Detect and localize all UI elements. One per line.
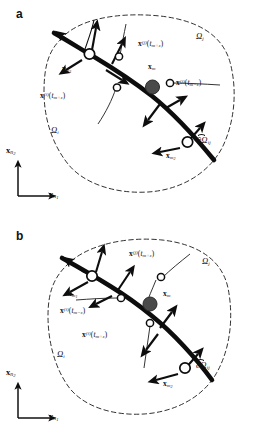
label-omega-i-b: Ωi (57, 350, 65, 359)
label-x-m1-b: xm1 (68, 290, 78, 299)
label-x-m-b: xm (163, 290, 171, 298)
axis-label-vertical-a: xn2 (6, 147, 16, 157)
node-open-m2 (180, 363, 190, 373)
label-omega-j-b: Ωj (202, 257, 210, 266)
panel-a-graphic (0, 0, 255, 218)
label-omega-j-a: Ωj (196, 32, 204, 41)
trajectory-line-j-plus (162, 254, 190, 278)
label-x-m2-b: xm2 (163, 380, 173, 389)
node-open-m2 (182, 137, 192, 147)
coordinate-axes (18, 166, 50, 196)
node-open-traj-i-plus (146, 319, 153, 326)
label-boundary-omega-ij-a: ∂Ωij (197, 136, 211, 145)
label-trajectory-j-minus-a: x(j)(tm−ε) (176, 79, 201, 87)
node-filled-xm (146, 80, 160, 94)
label-trajectory-i-minus-b: x(i)(tm−ε) (60, 307, 85, 315)
axis-label-horizontal-a: xn1 (49, 191, 59, 201)
coordinate-axes (18, 388, 50, 418)
trajectory-line-i-minus (76, 298, 118, 300)
panel-b-graphic (0, 218, 255, 436)
label-omega-i-a: Ωi (51, 126, 59, 135)
label-x-m-a: xm (148, 63, 156, 71)
figure-container: a (0, 0, 255, 436)
label-x-m1-a: xm1 (62, 65, 72, 74)
label-trajectory-j-plus-b: x(j)(tm+ε) (129, 250, 154, 258)
interface-curve-main (62, 258, 212, 380)
label-x-m2-a: xm2 (166, 152, 176, 161)
node-open-m1 (87, 271, 97, 281)
label-trajectory-i-plus-a: x(i)(tm+ε) (40, 92, 65, 100)
node-open-traj-i-plus (113, 84, 120, 91)
label-boundary-omega-ij-b: ∂Ωij (196, 361, 210, 370)
axis-label-horizontal-b: xn1 (49, 413, 59, 423)
panel-a: a (0, 0, 255, 218)
panel-b: b (0, 218, 255, 436)
trajectory-line-i-plus (98, 88, 116, 124)
node-open-traj-j-plus (115, 53, 122, 60)
node-open-traj-j-minus (166, 79, 173, 86)
node-filled-xm (143, 297, 157, 311)
label-trajectory-i-plus-b: x(i)(tm+ε) (82, 331, 107, 339)
node-open-traj-j-plus (157, 273, 164, 280)
axis-label-vertical-b: xn2 (6, 369, 16, 379)
node-open-traj-i-minus (117, 294, 124, 301)
label-trajectory-j-plus-a: x(j)(tm+ε) (138, 40, 163, 48)
node-open-m1 (84, 49, 94, 59)
trajectory-line-j-plus (120, 24, 126, 55)
